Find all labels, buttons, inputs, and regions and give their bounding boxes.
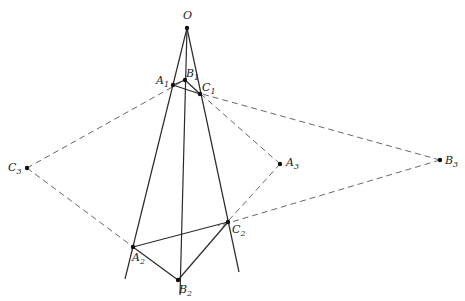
point-o [185, 26, 189, 30]
label-b1: B1 [185, 67, 199, 82]
point-b2 [176, 278, 180, 282]
dashed-c3-a2 [27, 168, 140, 252]
label-c3: C3 [8, 161, 22, 176]
label-c2: C2 [232, 223, 246, 238]
label-c1: C1 [202, 81, 216, 96]
label-a1: A1 [155, 74, 169, 89]
dashed-c3-a1 [27, 80, 185, 168]
point-c3 [25, 166, 29, 170]
label-a3: A3 [285, 156, 299, 171]
segment-b2-c2 [178, 222, 228, 280]
label-b3: B3 [444, 154, 458, 169]
label-b2: B2 [178, 283, 192, 298]
perspective-triangles-diagram: O A1 B1 C1 A2 B2 C2 A3 B3 C3 [0, 0, 465, 301]
point-c2 [226, 220, 230, 224]
label-o: O [183, 9, 192, 22]
point-a1 [171, 83, 175, 87]
segment-a2-c2 [133, 222, 228, 247]
point-b3 [438, 158, 442, 162]
dashed-b3-c2 [218, 160, 440, 226]
point-a2 [131, 245, 135, 249]
point-a3 [278, 162, 282, 166]
dashed-b3-c1 [195, 92, 440, 160]
label-a2: A2 [131, 251, 145, 266]
